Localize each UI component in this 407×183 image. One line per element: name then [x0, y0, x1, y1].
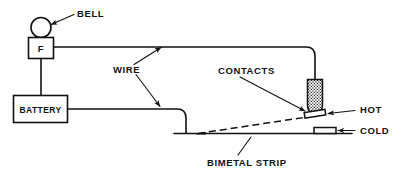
wire-upper-leader-line [134, 48, 161, 65]
bell-icon [31, 18, 51, 38]
diagram-canvas: F BATTERY [0, 0, 407, 183]
wire-label: WIRE [113, 64, 140, 75]
wire-top-circuit [54, 47, 316, 79]
cold-contact [314, 128, 336, 134]
fuse-box-label: F [38, 43, 44, 54]
wire-lower-leader-line [136, 75, 160, 107]
hot-label: HOT [360, 104, 382, 115]
hot-leader-line [328, 111, 355, 114]
contact-probe [308, 80, 323, 114]
bell-leader-line [51, 15, 74, 25]
wire-bottom-circuit [68, 109, 187, 133]
bell-label: BELL [77, 8, 104, 19]
battery-label: BATTERY [20, 105, 62, 115]
contacts-label: CONTACTS [218, 65, 275, 76]
bimetal-strip-label: BIMETAL STRIP [207, 157, 287, 168]
cold-label: COLD [360, 125, 389, 136]
contacts-leader-line [240, 77, 305, 111]
hot-contact [304, 109, 326, 118]
bimetal-strip-leader-line [238, 137, 251, 155]
circuit-diagram: F BATTERY [0, 0, 407, 183]
